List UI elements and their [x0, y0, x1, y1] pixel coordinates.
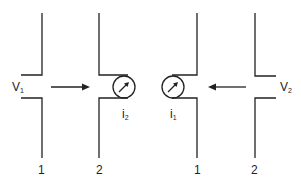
- right-electrode-2-top: [255, 13, 276, 76]
- right-electrode-1-bottom: [172, 98, 197, 158]
- right-current-label: i1: [170, 108, 177, 121]
- right-electrode-2-label: 2: [251, 164, 258, 176]
- right-voltage-label: V2: [280, 81, 292, 94]
- right-electrode-1-label: 1: [194, 164, 201, 176]
- left-electrode-2-label: 2: [96, 164, 103, 176]
- diagram-canvas: [0, 0, 301, 186]
- right-electrode-1-top: [172, 13, 197, 75]
- left-electrode-2-top: [99, 13, 128, 75]
- left-electrode-1-label: 1: [38, 164, 45, 176]
- left-voltage-label: V1: [12, 81, 24, 94]
- right-electrode-2-bottom: [255, 98, 276, 158]
- left-electrode-1-bottom: [21, 98, 42, 158]
- left-current-label: i2: [122, 108, 129, 121]
- left-electrode-1-top: [21, 13, 42, 75]
